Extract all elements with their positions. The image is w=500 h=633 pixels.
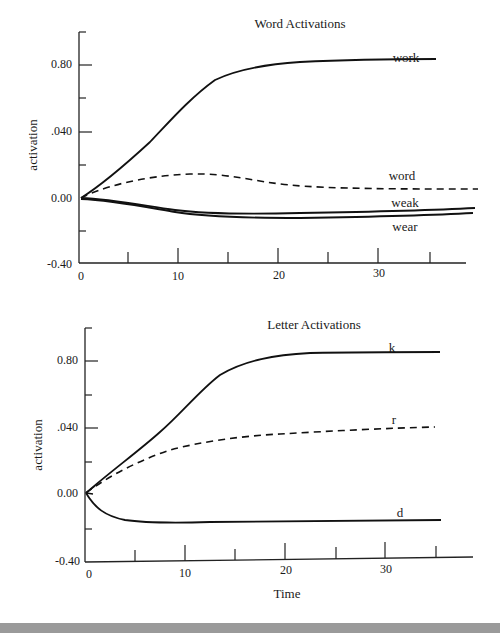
x-tick-label: 10 — [179, 566, 191, 580]
chart-title: Letter Activations — [267, 317, 361, 332]
chart-title: Word Activations — [254, 16, 345, 31]
y-tick-label: -0.40 — [55, 554, 80, 568]
label-k: k — [389, 340, 396, 355]
x-tick-label: 0 — [86, 567, 92, 581]
label-wear: wear — [392, 219, 418, 234]
series-d — [86, 493, 441, 523]
x-tick-label: 30 — [373, 266, 385, 280]
figure: Word Activations 0.80 .040 0.00 -0.40 ac… — [0, 0, 500, 633]
label-work: work — [393, 50, 420, 65]
x-tick-label: 0 — [78, 269, 84, 283]
origin-arrow-icon — [86, 486, 95, 494]
label-r: r — [392, 412, 397, 427]
x-tick-label: 10 — [172, 269, 184, 283]
y-tick-label: -0.40 — [47, 257, 72, 271]
label-weak: weak — [391, 195, 419, 210]
x-tick-label: 30 — [380, 562, 392, 576]
y-tick-label: 0.00 — [51, 191, 72, 205]
y-axis-label: activation — [30, 419, 45, 471]
y-tick-label: .040 — [57, 420, 78, 434]
series-r — [86, 427, 435, 493]
x-axis — [85, 557, 473, 562]
y-tick-label: 0.80 — [51, 57, 72, 71]
label-word: word — [389, 168, 416, 183]
series-k — [86, 352, 440, 493]
page-edge-shadow — [0, 623, 500, 633]
letter-activations-chart: Letter Activations 0.80 .040 0.00 -0.40 … — [30, 317, 473, 601]
y-axis-label: activation — [25, 119, 40, 171]
x-axis-label: Time — [274, 586, 301, 601]
x-tick-label: 20 — [273, 268, 285, 282]
y-tick-label: .040 — [51, 124, 72, 138]
x-tick-label: 20 — [280, 563, 292, 577]
y-tick-label: 0.00 — [57, 486, 78, 500]
series-work — [81, 59, 436, 198]
word-activations-chart: Word Activations 0.80 .040 0.00 -0.40 ac… — [25, 16, 478, 283]
y-tick-label: 0.80 — [57, 353, 78, 367]
label-d: d — [397, 505, 404, 520]
